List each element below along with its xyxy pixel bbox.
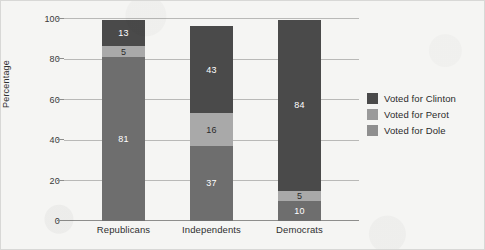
bar-segment-clinton[interactable]: 13 [102, 20, 145, 46]
chart-page: 100 80 60 40 20 0 Percentage 13 5 81 43 … [0, 0, 485, 250]
y-tick-mark [57, 220, 64, 221]
legend-label: Voted for Perot [384, 109, 449, 120]
y-tick-mark [57, 18, 64, 19]
legend-swatch-icon [367, 93, 378, 104]
legend-label: Voted for Clinton [384, 93, 456, 104]
y-axis-title: Percentage [1, 39, 11, 129]
y-tick-mark [57, 139, 64, 140]
legend-swatch-icon [367, 125, 378, 136]
legend-item-perot[interactable]: Voted for Perot [367, 109, 456, 120]
legend-label: Voted for Dole [384, 125, 446, 136]
bar-segment-dole[interactable]: 37 [190, 146, 233, 221]
bar-segment-dole[interactable]: 10 [278, 201, 321, 221]
legend-swatch-icon [367, 109, 378, 120]
bar-democrats[interactable]: 84 5 10 [278, 20, 321, 221]
y-tick-label: 60 [34, 95, 60, 105]
y-tick-label: 0 [34, 216, 60, 226]
bar-segment-perot[interactable]: 5 [278, 191, 321, 201]
y-tick-label: 20 [34, 176, 60, 186]
y-tick-label: 40 [34, 135, 60, 145]
y-tick-mark [57, 180, 64, 181]
plot-area: 13 5 81 43 16 37 84 5 10 Republicans Ind… [64, 18, 359, 221]
bar-republicans[interactable]: 13 5 81 [102, 20, 145, 221]
legend-item-dole[interactable]: Voted for Dole [367, 125, 456, 136]
bar-segment-perot[interactable]: 16 [190, 113, 233, 146]
legend-item-clinton[interactable]: Voted for Clinton [367, 93, 456, 104]
bar-independents[interactable]: 43 16 37 [190, 26, 233, 221]
y-tick-label: 80 [34, 54, 60, 64]
bar-segment-clinton[interactable]: 84 [278, 20, 321, 191]
bar-segment-dole[interactable]: 81 [102, 57, 145, 221]
y-tick-mark [57, 58, 64, 59]
bar-segment-perot[interactable]: 5 [102, 46, 145, 56]
x-tick-label-democrats: Democrats [245, 224, 355, 235]
y-tick-mark [57, 99, 64, 100]
bar-segment-clinton[interactable]: 43 [190, 26, 233, 113]
y-tick-label: 100 [34, 14, 60, 24]
gridline [64, 18, 359, 19]
legend: Voted for Clinton Voted for Perot Voted … [367, 93, 456, 136]
